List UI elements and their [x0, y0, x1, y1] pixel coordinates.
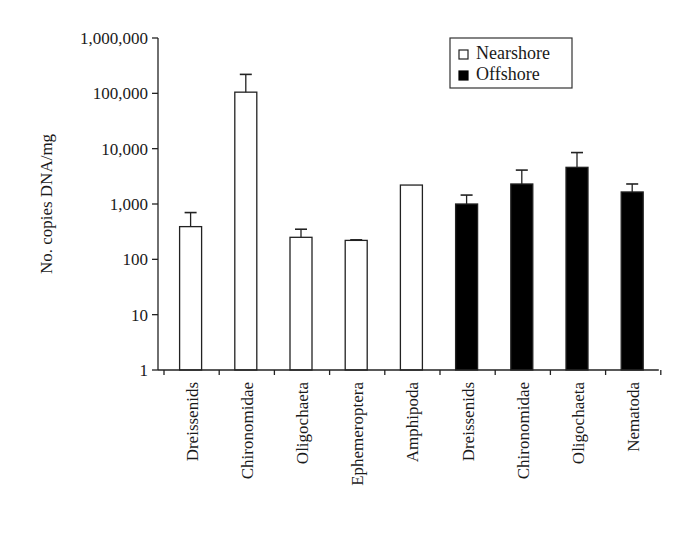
- x-category-label: Chironomidae: [514, 382, 533, 479]
- legend: Nearshore Offshore: [450, 38, 572, 88]
- bar: [235, 92, 257, 370]
- x-category-label: Dreissenids: [183, 382, 202, 461]
- y-axis: 1101001,00010,000100,0001,000,000: [80, 29, 158, 380]
- x-category-label: Chironomidae: [238, 382, 257, 479]
- bar: [566, 167, 588, 370]
- bar: [290, 237, 312, 370]
- y-tick-label: 100: [123, 250, 149, 269]
- x-axis: DreissenidsChironomidaeOligochaetaEpheme…: [158, 370, 661, 486]
- x-category-label: Nematoda: [624, 382, 643, 452]
- x-category-label: Dreissenids: [459, 382, 478, 461]
- y-tick-label: 10: [131, 306, 148, 325]
- legend-label-offshore: Offshore: [476, 64, 540, 84]
- bar: [511, 184, 533, 370]
- bar: [621, 192, 643, 370]
- x-category-label: Amphipoda: [403, 382, 422, 463]
- bars: [180, 74, 644, 370]
- x-category-label: Oligochaeta: [569, 382, 588, 465]
- y-tick-label: 1: [140, 361, 149, 380]
- y-tick-label: 1,000: [110, 195, 148, 214]
- legend-label-nearshore: Nearshore: [476, 43, 550, 63]
- bar: [400, 185, 422, 370]
- nearshore-swatch-icon: [459, 50, 468, 59]
- bar: [456, 204, 478, 370]
- y-tick-label: 100,000: [93, 84, 148, 103]
- offshore-swatch-icon: [459, 71, 468, 80]
- y-tick-label: 10,000: [101, 140, 148, 159]
- y-axis-label: No. copies DNA/mg: [37, 133, 56, 274]
- x-category-label: Oligochaeta: [293, 382, 312, 465]
- bar: [345, 240, 367, 370]
- x-category-label: Ephemeroptera: [348, 382, 367, 486]
- bar: [180, 227, 202, 370]
- y-tick-label: 1,000,000: [80, 29, 148, 48]
- bar-chart: 1101001,00010,000100,0001,000,000 Dreiss…: [0, 0, 681, 548]
